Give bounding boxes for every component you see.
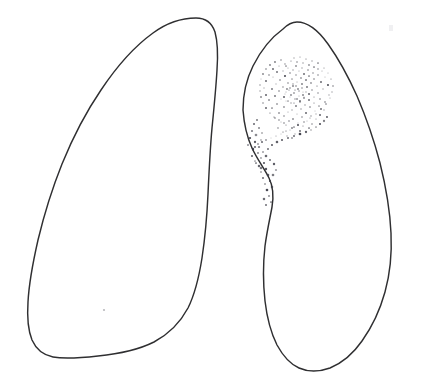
stipple-dot [308,127,310,129]
stipple-dot [305,131,307,133]
stipple-dot [314,97,315,98]
stipple-dot [263,87,265,89]
stipple-dot [293,135,295,137]
stipple-dot [279,79,280,80]
faint-speck-left-base [103,309,105,311]
stipple-dot [251,130,253,132]
stipple-dot [320,108,322,110]
stipple-dot [290,102,291,103]
stipple-dot [288,89,289,90]
stipple-dot [269,112,270,113]
stipple-dot [276,71,278,73]
stipple-dot [313,78,314,79]
stipple-dot [287,137,289,139]
stipple-dot [273,116,274,117]
stipple-dot [284,75,286,77]
stipple-dot [273,163,275,165]
stipple-dot [287,111,288,112]
stipple-dot [300,108,302,110]
stipple-dot [300,77,301,78]
stipple-dot [270,201,272,203]
stipple-dot [305,58,306,59]
stipple-dot [290,60,291,61]
stipple-dot [276,103,278,105]
stipple-dot [317,68,319,70]
stipple-dot [278,90,280,92]
stipple-dot [319,114,321,116]
stipple-dot [289,87,290,88]
stipple-dot [291,127,293,129]
stipple-dot [278,119,280,121]
stipple-dot [272,68,274,70]
stipple-dot [285,94,286,95]
stipple-dot [292,118,294,120]
stipple-dot [296,98,298,100]
stipple-dot [299,100,301,102]
stipple-dot [258,127,260,129]
stipple-dot [259,90,260,91]
stipple-dot [285,130,286,131]
stipple-dot [291,109,292,110]
stipple-dot [269,64,271,66]
stipple-dot [303,121,304,122]
stipple-dot [282,131,283,132]
stipple-dot [271,107,273,109]
stipple-dot [289,72,290,73]
stipple-dot [262,102,263,103]
stipple-dot [303,73,305,75]
stipple-dot [256,119,258,121]
stipple-dot [265,68,267,70]
stipple-dot [324,76,325,77]
stipple-dot [268,99,270,101]
stipple-dot [260,139,262,141]
stipple-dot [330,78,331,79]
stipple-dot [272,76,273,77]
stipple-dot [299,133,302,136]
stipple-dot [280,98,281,99]
stipple-dot [254,160,256,162]
stipple-dot [288,120,289,121]
stipple-dot [251,155,253,157]
stipple-dot [310,129,312,131]
stipple-dot [263,198,266,201]
stipple-dot [296,113,297,114]
stipple-dot [299,56,300,57]
stipple-dot [287,67,288,68]
stipple-dot [316,85,317,86]
stipple-dot [290,94,292,96]
stipple-dot [265,155,268,158]
stipple-dot [262,73,264,75]
stipple-dot [293,126,295,128]
stipple-dot [264,183,266,185]
stipple-dot [265,107,267,109]
stipple-dot [318,105,320,107]
stipple-dot [283,115,284,116]
stipple-dot [278,112,280,114]
stipple-dot [299,71,300,72]
stipple-dot [315,111,316,112]
stipple-dot [302,125,303,126]
stipple-dot [272,174,275,177]
stipple-dot [265,204,267,206]
stipple-dot [269,180,271,182]
stipple-dot [252,148,254,150]
stipple-dot [261,79,262,80]
stipple-dot [302,94,304,96]
stipple-dot [287,100,289,102]
stipple-dot [294,98,295,99]
stipple-dot [308,64,310,66]
stipple-dot [303,96,304,97]
stipple-dot [317,62,319,64]
stipple-dot [326,116,328,118]
figure-root: Hand-drawn bilateral lung outline diagra… [0,0,428,383]
stipple-dot [295,65,297,67]
stipple-dot [323,109,325,111]
stipple-dot [331,91,332,92]
stipple-dot [315,113,316,114]
stipple-dot [253,123,255,125]
stipple-dot [310,82,312,84]
stipple-dot [281,122,282,123]
stipple-dot [247,144,249,146]
stipple-dot [295,74,296,75]
stipple-dot [296,61,297,62]
